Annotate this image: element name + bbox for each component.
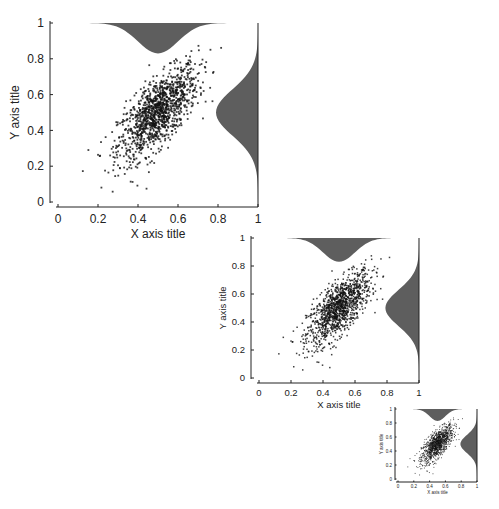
y-tick-label: 0.6 — [27, 88, 44, 102]
top-marginal-density — [267, 238, 411, 262]
y-tick-label: 0.6 — [232, 288, 245, 299]
right-marginal-density — [460, 409, 477, 479]
x-axis-title: X axis title — [427, 490, 448, 495]
x-tick-label: 0.6 — [442, 484, 449, 489]
x-tick-label: 0.6 — [170, 212, 187, 226]
y-tick-label: 0 — [389, 477, 392, 482]
y-tick-label: 1 — [240, 232, 245, 243]
x-tick-label: 0.2 — [90, 212, 107, 226]
y-tick-label: 0.2 — [27, 159, 44, 173]
x-tick-label: 1 — [416, 387, 421, 398]
y-tick-label: 0.4 — [27, 124, 44, 138]
x-tick-label: 0 — [256, 387, 261, 398]
y-axis-title: Y axis title — [8, 85, 22, 140]
right-marginal-density — [216, 23, 258, 202]
x-axis-title: X axis title — [317, 399, 360, 410]
y-tick-label: 0.4 — [232, 316, 245, 327]
y-tick-label: 0.2 — [232, 344, 245, 355]
y-tick-label: 0 — [240, 372, 245, 383]
scatter-marginal-figure: 00.20.40.60.8100.20.40.60.81X axis title… — [0, 0, 499, 509]
x-tick-label: 1 — [255, 212, 262, 226]
scatter-points — [407, 417, 463, 475]
x-tick-label: 0.4 — [130, 212, 147, 226]
x-tick-label: 0.8 — [210, 212, 227, 226]
top-marginal-density — [68, 23, 248, 53]
y-tick-label: 0.2 — [386, 463, 393, 468]
y-tick-label: 0.6 — [386, 435, 393, 440]
x-tick-label: 0.4 — [316, 387, 329, 398]
x-tick-label: 1 — [476, 484, 479, 489]
chart-panel-large: 00.20.40.60.8100.20.40.60.81X axis title… — [8, 16, 262, 241]
scatter-points — [278, 255, 390, 371]
y-tick-label: 1 — [389, 407, 392, 412]
x-tick-label: 0.8 — [458, 484, 465, 489]
y-tick-label: 0.4 — [386, 449, 393, 454]
x-tick-label: 0.6 — [348, 387, 361, 398]
x-tick-label: 0.2 — [411, 484, 418, 489]
x-tick-label: 0.2 — [284, 387, 297, 398]
y-tick-label: 0.8 — [27, 52, 44, 66]
y-tick-label: 1 — [37, 16, 44, 30]
right-marginal-density — [385, 238, 419, 378]
x-tick-label: 0 — [55, 212, 62, 226]
x-axis-title: X axis title — [131, 227, 186, 241]
y-axis-title: Y axis title — [379, 433, 384, 454]
chart-panel-medium: 00.20.40.60.8100.20.40.60.81X axis title… — [217, 232, 421, 409]
y-tick-label: 0.8 — [232, 260, 245, 271]
x-tick-label: 0 — [397, 484, 400, 489]
x-tick-label: 0.8 — [380, 387, 393, 398]
y-tick-label: 0.8 — [386, 421, 393, 426]
y-axis-title: Y axis title — [217, 286, 228, 329]
x-tick-label: 0.4 — [426, 484, 433, 489]
y-tick-label: 0 — [37, 195, 44, 209]
scatter-points — [82, 45, 222, 193]
chart-panel-small: 00.20.40.60.8100.20.40.60.81X axis title… — [379, 407, 478, 495]
